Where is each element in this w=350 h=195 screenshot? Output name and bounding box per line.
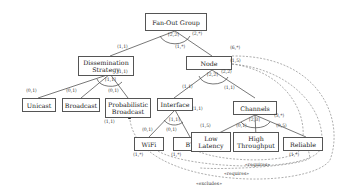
cardinality-channels-right: ⟨3,*⟩ bbox=[274, 113, 284, 118]
cardinality-wifi-target: ⟨1,*⟩ bbox=[133, 152, 143, 157]
feature-reliable[interactable]: Reliable bbox=[283, 137, 323, 151]
group-cardinality-node: [2,2] bbox=[207, 72, 218, 77]
feature-fan-out-group[interactable]: Fan-Out Group bbox=[145, 13, 207, 31]
cardinality-unicast: ⟨0,1⟩ bbox=[26, 88, 37, 93]
feature-unicast[interactable]: Unicast bbox=[22, 98, 56, 112]
feature-wifi[interactable]: WiFi bbox=[134, 137, 164, 151]
feature-probabilistic-broadcast[interactable]: Probabilistic Broadcast bbox=[105, 98, 151, 118]
group-cardinality-interface: [1,1] bbox=[169, 117, 180, 122]
cardinality-bt-target: ⟨1,*⟩ bbox=[171, 152, 181, 157]
constraint-excludes: «excludes» bbox=[196, 181, 222, 186]
feature-high-throughput[interactable]: High Throughput bbox=[233, 132, 279, 152]
feature-broadcast[interactable]: Broadcast bbox=[62, 98, 100, 112]
group-cardinality-root: [2,2] bbox=[168, 32, 179, 37]
group-cardinality-dissemination: [1,1] bbox=[105, 77, 116, 82]
feature-interface[interactable]: Interface bbox=[157, 98, 193, 111]
cardinality-node-excludes-source: ⟨6,*⟩ bbox=[230, 45, 240, 50]
cardinality-broadcast: ⟨0,1⟩ bbox=[66, 88, 77, 93]
cardinality-low-latency: ⟨1,5⟩ bbox=[200, 123, 211, 128]
group-cardinality-channels: [2,3] bbox=[249, 117, 260, 122]
cardinality-root-node-parent: ⟨2,*⟩ bbox=[192, 31, 202, 36]
cardinality-interface-right: ⟨1,1⟩ bbox=[192, 106, 203, 111]
cardinality-root-dissemination: ⟨1,1⟩ bbox=[117, 44, 128, 49]
constraint-requires-2: «requires» bbox=[224, 171, 249, 176]
cardinality-reliable-target: ⟨1,*⟩ bbox=[289, 152, 299, 157]
cardinality-node-channels-child: ⟨1,1⟩ bbox=[224, 85, 235, 90]
cardinality-node-requires-source: ⟨1,5⟩ bbox=[230, 58, 241, 63]
cardinality-probabilistic-target: ⟨1,1⟩ bbox=[104, 119, 115, 124]
cardinality-probabilistic: ⟨0,1⟩ bbox=[108, 88, 119, 93]
cardinality-reliable: ⟨0,5⟩ bbox=[276, 123, 287, 128]
cardinality-node-channels-parent: ⟨2,2⟩ bbox=[221, 69, 232, 74]
cardinality-node-interface: ⟨1,1⟩ bbox=[182, 84, 193, 89]
cardinality-root-node-child: ⟨1,*⟩ bbox=[175, 44, 185, 49]
feature-node[interactable]: Node bbox=[186, 56, 232, 70]
cardinality-wifi: ⟨0,1⟩ bbox=[142, 127, 153, 132]
feature-low-latency[interactable]: Low Latency bbox=[191, 132, 231, 152]
cardinality-high-throughput: ⟨0,1⟩ bbox=[236, 123, 247, 128]
feature-channels[interactable]: Channels bbox=[233, 101, 277, 115]
cardinality-bt: ⟨0,1⟩ bbox=[166, 127, 177, 132]
constraint-requires-1: «requires» bbox=[245, 162, 270, 167]
cardinality-dissemination-right: ⟨1,1⟩ bbox=[117, 69, 128, 74]
